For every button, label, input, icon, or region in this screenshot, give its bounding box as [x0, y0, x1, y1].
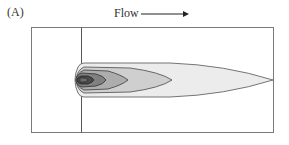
- flow-arrow-icon: [141, 11, 189, 17]
- plume-diagram: [0, 0, 289, 145]
- contour-innermost: [80, 78, 88, 82]
